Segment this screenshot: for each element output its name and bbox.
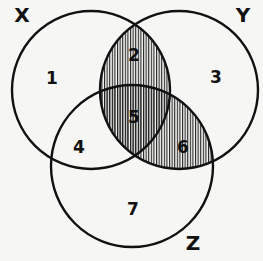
venn-diagram: X Y Z 1 2 3 4 5 6 7 — [0, 0, 263, 261]
region-label-4: 4 — [73, 139, 85, 156]
set-label-y: Y — [236, 5, 250, 25]
region-label-6: 6 — [177, 139, 189, 156]
set-label-z: Z — [186, 233, 201, 253]
region-label-3: 3 — [210, 69, 222, 86]
set-label-x: X — [14, 5, 29, 25]
region-label-7: 7 — [127, 201, 139, 218]
region-label-2: 2 — [128, 47, 140, 64]
region-label-1: 1 — [46, 70, 58, 87]
region-label-5: 5 — [128, 109, 140, 126]
venn-graphic — [0, 0, 263, 261]
